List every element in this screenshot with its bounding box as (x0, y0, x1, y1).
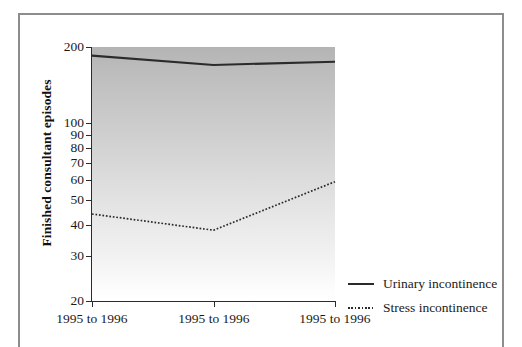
y-axis-tick-label: 20 (44, 294, 84, 308)
legend-swatch-solid-line-icon (348, 278, 374, 290)
y-axis-tick (86, 180, 92, 181)
y-axis-tick (86, 47, 92, 48)
y-axis-tick (86, 123, 92, 124)
series-line-urinary-incontinence (92, 56, 335, 65)
frame-border-top (18, 13, 504, 15)
chart-legend: Urinary incontinence Stress incontinence (348, 272, 498, 320)
y-axis-tick (86, 256, 92, 257)
y-axis-line (91, 47, 92, 302)
y-axis-tick (86, 225, 92, 226)
legend-label: Stress incontinence (383, 301, 488, 315)
chart-figure: 2001009080706050403020 1995 to 19961995 … (0, 0, 522, 347)
y-axis-tick (86, 200, 92, 201)
y-axis-title: Finished consultant episodes (39, 38, 55, 288)
x-axis-tick-label: 1995 to 1996 (144, 311, 284, 326)
plot-area (92, 47, 335, 301)
series-line-stress-incontinence (92, 182, 335, 231)
x-axis-tick-label: 1995 to 1996 (22, 311, 162, 326)
data-series-layer (92, 47, 335, 301)
frame-border-right (502, 13, 504, 347)
legend-item-stress-incontinence[interactable]: Stress incontinence (348, 296, 498, 320)
x-axis-tick (335, 301, 336, 307)
x-axis-tick (214, 301, 215, 307)
y-axis-tick (86, 148, 92, 149)
legend-swatch-dotted-line-icon (348, 302, 374, 314)
legend-label: Urinary incontinence (383, 277, 497, 291)
legend-item-urinary-incontinence[interactable]: Urinary incontinence (348, 272, 498, 296)
y-axis-tick (86, 135, 92, 136)
y-axis-tick (86, 163, 92, 164)
frame-border-left (18, 13, 20, 347)
x-axis-tick (92, 301, 93, 307)
